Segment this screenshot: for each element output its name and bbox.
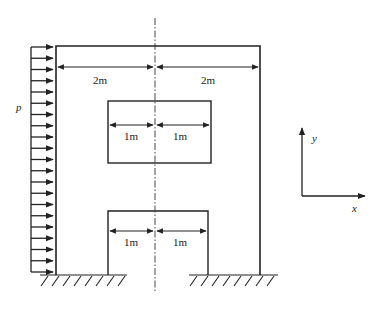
dim-inner-lower-right: 1m: [173, 236, 188, 248]
ground-hatch: [52, 276, 59, 286]
ground-hatch: [245, 276, 252, 286]
ground-hatch: [256, 276, 263, 286]
ground-hatch: [190, 276, 197, 286]
ground-hatch: [234, 276, 241, 286]
ground-hatch: [107, 276, 114, 286]
dim-outer-left: 2m: [93, 74, 108, 86]
y-axis-label: y: [311, 132, 317, 144]
ground-hatch: [41, 276, 48, 286]
ground-hatch: [267, 276, 274, 286]
ground-support-right: [189, 275, 278, 286]
ground-hatch: [201, 276, 208, 286]
ground-hatch: [63, 276, 70, 286]
ground-hatch: [212, 276, 219, 286]
outer-frame: [56, 46, 260, 275]
ground-support-left: [40, 275, 127, 286]
distributed-load: [31, 47, 53, 272]
dim-inner-upper-right: 1m: [173, 130, 188, 142]
frame-diagram: p 2m 2m 1m 1m 1m 1m y x: [0, 0, 387, 310]
load-label: p: [15, 101, 22, 113]
ground-hatch: [85, 276, 92, 286]
dimension-lines: [58, 67, 258, 231]
ground-hatch: [96, 276, 103, 286]
ground-hatch: [118, 276, 125, 286]
dim-outer-right: 2m: [201, 74, 216, 86]
dim-inner-lower-left: 1m: [124, 236, 139, 248]
x-axis-label: x: [351, 202, 357, 214]
ground-hatch: [74, 276, 81, 286]
dim-inner-upper-left: 1m: [124, 130, 139, 142]
ground-hatch: [223, 276, 230, 286]
